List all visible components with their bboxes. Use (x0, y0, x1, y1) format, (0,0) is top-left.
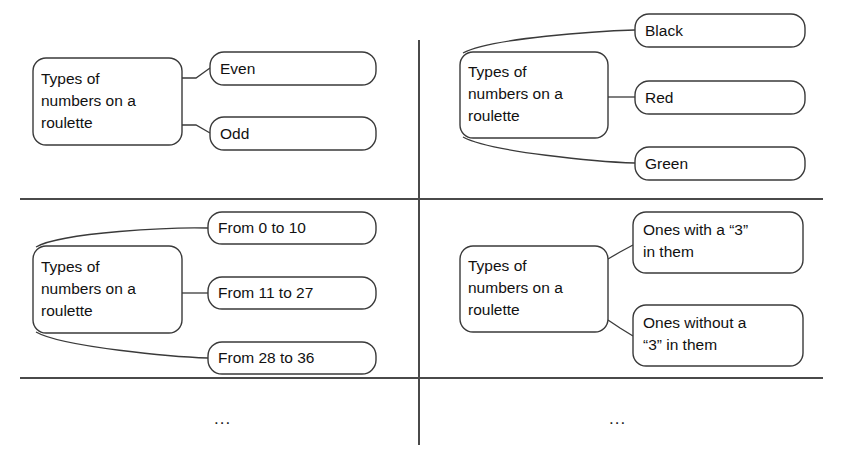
node-color-black[interactable]: Black (635, 14, 805, 47)
node-color-green[interactable]: Green (635, 147, 805, 180)
node-label-line: roulette (41, 302, 93, 319)
ellipsis-group: ... ... (214, 409, 626, 428)
node-range-0-10[interactable]: From 0 to 10 (208, 212, 376, 244)
node-label-line: From 0 to 10 (218, 219, 306, 236)
node-parity-even[interactable]: Even (210, 52, 376, 85)
node-label-line: “3” in them (643, 336, 717, 353)
ellipsis-right: ... (609, 409, 626, 428)
connector-color-green (463, 137, 635, 163)
diagram-canvas: Types of numbers on a roulette Even Odd … (0, 0, 841, 458)
node-parity-root[interactable]: Types of numbers on a roulette (33, 58, 182, 145)
node-color-red[interactable]: Red (635, 81, 805, 114)
node-label-line: Even (220, 60, 255, 77)
node-label-line: Black (645, 22, 683, 39)
connector-color-black (463, 30, 635, 53)
node-range-root[interactable]: Types of numbers on a roulette (33, 246, 182, 333)
node-label-line: Types of (41, 258, 100, 275)
node-label-line: roulette (468, 301, 520, 318)
connector-with-three (608, 245, 633, 259)
node-label-line: roulette (468, 107, 520, 124)
node-label-line: numbers on a (41, 92, 136, 109)
node-label-line: in them (643, 243, 694, 260)
node-with-three[interactable]: Ones with a “3” in them (633, 212, 803, 273)
connector-without-three (608, 320, 633, 336)
quadrant-color: Types of numbers on a roulette Black Red… (460, 14, 805, 180)
node-without-three[interactable]: Ones without a “3” in them (633, 305, 803, 366)
node-label-line: numbers on a (468, 85, 563, 102)
quadrant-range: Types of numbers on a roulette From 0 to… (33, 212, 376, 374)
node-label-line: Odd (220, 125, 249, 142)
quadrant-contains-three: Types of numbers on a roulette Ones with… (460, 212, 803, 366)
node-label-line: From 11 to 27 (218, 284, 313, 301)
connector-parity-odd (182, 125, 210, 133)
node-label-line: From 28 to 36 (218, 349, 315, 366)
quadrant-parity: Types of numbers on a roulette Even Odd (33, 52, 376, 150)
node-label-line: Ones with a “3” (643, 221, 748, 238)
node-label-line: roulette (41, 114, 93, 131)
node-range-28-36[interactable]: From 28 to 36 (208, 342, 376, 374)
node-parity-odd[interactable]: Odd (210, 117, 376, 150)
node-three-root[interactable]: Types of numbers on a roulette (460, 246, 608, 332)
node-label-line: Ones without a (643, 314, 747, 331)
node-label-line: numbers on a (41, 280, 136, 297)
node-label-line: Red (645, 89, 673, 106)
ellipsis-left: ... (214, 409, 231, 428)
connector-range-low (36, 228, 208, 247)
node-label-line: Types of (468, 63, 527, 80)
node-label-line: Types of (41, 70, 100, 87)
attribute-split-diagram: Types of numbers on a roulette Even Odd … (0, 0, 841, 458)
connector-range-high (36, 332, 208, 358)
node-range-11-27[interactable]: From 11 to 27 (208, 277, 376, 309)
node-label-line: numbers on a (468, 279, 563, 296)
node-label-line: Green (645, 155, 688, 172)
node-color-root[interactable]: Types of numbers on a roulette (460, 52, 608, 138)
node-label-line: Types of (468, 257, 527, 274)
connector-parity-even (182, 68, 210, 78)
